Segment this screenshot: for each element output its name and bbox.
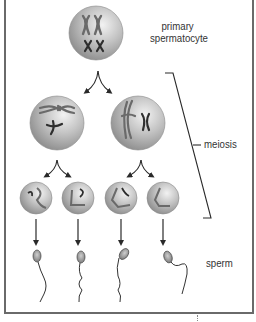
spermatid-cell [62, 182, 94, 214]
sperm-icon [77, 251, 85, 302]
spermatid-cell [105, 182, 137, 214]
meiosis-diagram: primary spermatocyte meiosis sperm [0, 0, 256, 322]
sperm-icon [162, 250, 187, 294]
spermatid-cell [147, 182, 179, 214]
label-line-primary: primary [150, 20, 205, 32]
primary-spermatocyte-cell [69, 6, 123, 60]
sperm-icon [33, 250, 46, 302]
split-arrow-icon [86, 71, 110, 92]
spermatid-cell [20, 182, 52, 214]
secondary-spermatocyte-cell-right [111, 96, 165, 150]
down-arrow-icon [36, 219, 163, 243]
meiosis-label: meiosis [204, 138, 237, 150]
sperm-label: sperm [206, 257, 233, 269]
dotted-mark [197, 315, 199, 321]
label-line-spermatocyte: spermatocyte [150, 32, 205, 44]
split-arrow-icon [46, 160, 152, 176]
primary-spermatocyte-label: primary spermatocyte [150, 20, 205, 44]
diagram-graphics [0, 0, 256, 322]
sperm-icon [117, 247, 131, 302]
secondary-spermatocyte-cell-left [30, 96, 84, 150]
